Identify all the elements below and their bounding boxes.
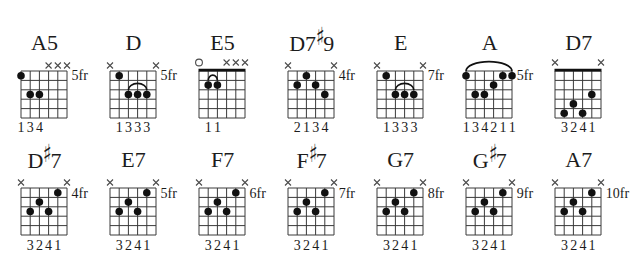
finger-dot	[26, 91, 34, 99]
finger-dot	[294, 81, 302, 89]
finger-dot	[499, 72, 507, 80]
finger-dot	[561, 110, 569, 118]
fretboard	[178, 26, 267, 141]
finger-number: 4	[320, 120, 330, 136]
finger-number: 1	[212, 120, 222, 136]
finger-dot	[134, 208, 142, 216]
finger-number: 1	[587, 238, 597, 254]
chord-diagram: A55fr134	[0, 26, 89, 141]
chord-diagram: F♯77fr3241	[267, 143, 356, 258]
fret-position-label: 9fr	[517, 186, 533, 202]
chord-diagram: A710fr3241	[534, 143, 623, 258]
chord-diagram: E75fr3241	[89, 143, 178, 258]
muted-string-icon	[46, 63, 52, 69]
finger-dot	[143, 189, 151, 197]
finger-dot	[303, 72, 311, 80]
finger-number: 1	[142, 238, 152, 254]
chord-diagram: E7fr1333	[356, 26, 445, 141]
muted-string-icon	[242, 60, 248, 66]
finger-dot	[321, 189, 329, 197]
barre-arc	[208, 75, 217, 81]
finger-dot	[125, 91, 133, 99]
finger-dot	[115, 208, 123, 216]
chord-diagram: G78fr3241	[356, 143, 445, 258]
finger-dot	[143, 91, 151, 99]
muted-string-icon	[420, 180, 426, 186]
finger-dot	[499, 189, 507, 197]
muted-string-icon	[331, 180, 337, 186]
fret-position-label: 5fr	[517, 68, 533, 84]
finger-number: 1	[507, 120, 517, 136]
fret-position-label: 5fr	[72, 68, 88, 84]
finger-dot	[45, 208, 53, 216]
finger-dot	[570, 100, 578, 108]
muted-string-icon	[233, 60, 239, 66]
finger-dot	[508, 72, 516, 80]
finger-number: 1	[320, 238, 330, 254]
muted-string-icon	[107, 63, 113, 69]
muted-string-icon	[331, 63, 337, 69]
finger-number: 1	[53, 238, 63, 254]
muted-string-icon	[285, 63, 291, 69]
finger-dot	[472, 208, 480, 216]
finger-dot	[223, 208, 231, 216]
finger-dot	[232, 189, 240, 197]
finger-dot	[134, 91, 142, 99]
finger-dot	[579, 110, 587, 118]
muted-string-icon	[153, 63, 159, 69]
finger-dot	[312, 208, 320, 216]
muted-string-icon	[463, 180, 469, 186]
finger-number: 3	[409, 120, 419, 136]
muted-string-icon	[242, 180, 248, 186]
muted-string-icon	[64, 180, 70, 186]
fret-position-label: 6fr	[250, 186, 266, 202]
muted-string-icon	[509, 180, 515, 186]
finger-dot	[472, 91, 480, 99]
finger-dot	[125, 199, 133, 207]
fret-position-label: 7fr	[339, 186, 355, 202]
finger-dot	[588, 189, 596, 197]
chord-diagram: D♯74fr3241	[0, 143, 89, 258]
finger-number: 4	[34, 120, 44, 136]
muted-string-icon	[552, 180, 558, 186]
finger-dot	[579, 208, 587, 216]
finger-dot	[490, 81, 498, 89]
finger-dot	[214, 199, 222, 207]
muted-string-icon	[374, 180, 380, 186]
finger-dot	[214, 81, 222, 89]
finger-dot	[383, 72, 391, 80]
chord-chart: A55fr134D5fr1333E511D7♯94fr2134E7fr1333A…	[0, 0, 640, 276]
finger-dot	[588, 91, 596, 99]
muted-string-icon	[18, 180, 24, 186]
chord-diagram: F76fr3241	[178, 143, 267, 258]
finger-number: 1	[587, 120, 597, 136]
finger-number: 3	[142, 120, 152, 136]
fret-position-label: 8fr	[428, 186, 444, 202]
finger-dot	[401, 91, 409, 99]
finger-dot	[410, 91, 418, 99]
finger-dot	[410, 189, 418, 197]
finger-dot	[294, 208, 302, 216]
chord-diagram: D73241	[534, 26, 623, 141]
fret-position-label: 4fr	[339, 68, 355, 84]
chord-diagram: G♯79fr3241	[445, 143, 534, 258]
muted-string-icon	[107, 180, 113, 186]
finger-dot	[481, 199, 489, 207]
finger-dot	[115, 72, 123, 80]
finger-dot	[490, 208, 498, 216]
finger-number: 1	[409, 238, 419, 254]
muted-string-icon	[598, 180, 604, 186]
muted-string-icon	[153, 180, 159, 186]
muted-string-icon	[285, 180, 291, 186]
finger-dot	[26, 208, 34, 216]
finger-dot	[303, 199, 311, 207]
fret-position-label: 4fr	[72, 186, 88, 202]
chord-diagram: D7♯94fr2134	[267, 26, 356, 141]
finger-dot	[561, 208, 569, 216]
fret-position-label: 5fr	[161, 68, 177, 84]
muted-string-icon	[420, 63, 426, 69]
muted-string-icon	[196, 180, 202, 186]
muted-string-icon	[552, 60, 558, 66]
finger-dot	[401, 208, 409, 216]
muted-string-icon	[374, 63, 380, 69]
